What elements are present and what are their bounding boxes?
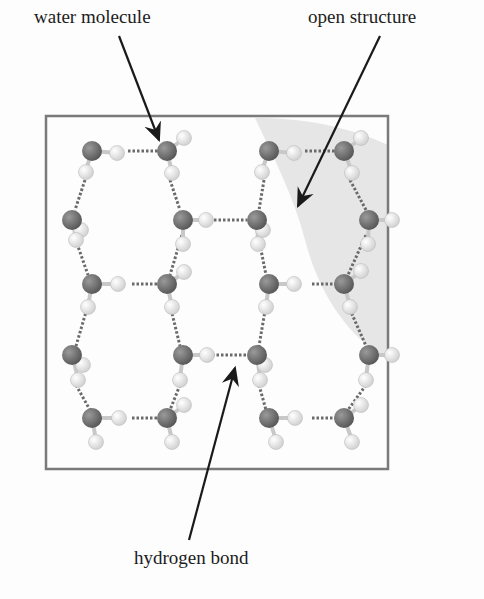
water-molecule-arrow [119,36,159,140]
hydrogen-bond-arrow [189,368,235,540]
ice-lattice-diagram [0,0,484,599]
